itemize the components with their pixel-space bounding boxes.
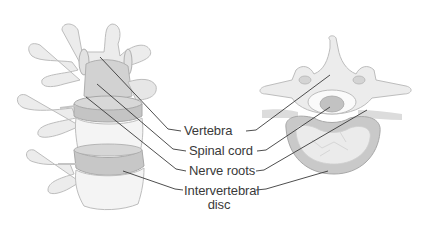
label-intervertebral-line1: Intervertebral	[184, 183, 254, 198]
leader-disc-right	[256, 171, 328, 190]
spinous-process-mid	[17, 95, 80, 138]
axial-view	[260, 36, 411, 174]
spinous-process-upper	[29, 44, 80, 87]
intervertebral-disc-top	[74, 144, 142, 156]
facet-right-axial	[353, 76, 365, 84]
label-intervertebral-disc: Intervertebral disc	[184, 183, 254, 212]
spinous-process-lower	[27, 150, 81, 194]
label-intervertebral-line2: disc	[184, 197, 254, 212]
label-vertebra: Vertebra	[184, 123, 232, 138]
label-spinal-cord: Spinal cord	[189, 143, 253, 158]
label-nerve-roots: Nerve roots	[189, 163, 255, 178]
spinal-cord-axial	[320, 96, 344, 112]
facet-left-axial	[299, 76, 311, 84]
nerve-root-right	[128, 79, 156, 100]
nerve-root-left-strand	[262, 109, 298, 118]
